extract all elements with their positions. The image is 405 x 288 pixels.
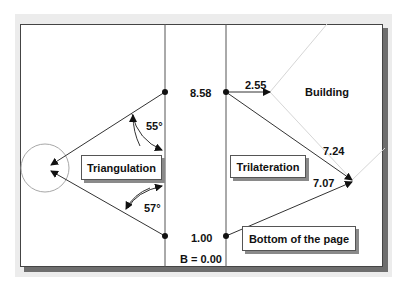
point-left-top — [162, 89, 168, 95]
distance-diagonal-bottom-label: 7.07 — [313, 178, 334, 189]
baseline-label: B = 0.00 — [180, 254, 222, 265]
bottom-of-page-box: Bottom of the page — [242, 226, 356, 251]
point-right-bottom — [223, 233, 229, 239]
trilateration-box: Trilateration — [230, 155, 306, 178]
point-right-top — [223, 89, 229, 95]
building-label: Building — [305, 87, 349, 98]
target-circle — [21, 144, 69, 192]
distance-diagonal-top-label: 7.24 — [323, 146, 344, 157]
angle-bottom-label: 57° — [144, 203, 161, 214]
triangulation-box: Triangulation — [81, 155, 162, 180]
distance-horizontal-label: 2.55 — [245, 80, 266, 91]
point-left-bottom — [162, 233, 168, 239]
middle-top-value: 8.58 — [190, 88, 211, 99]
middle-bottom-value: 1.00 — [191, 233, 212, 244]
angle-top-label: 55° — [146, 121, 163, 132]
